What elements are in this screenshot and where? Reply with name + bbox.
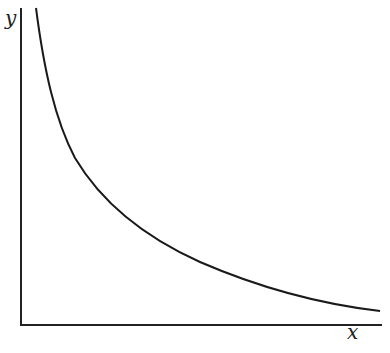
chart-canvas bbox=[0, 0, 390, 353]
y-axis-label: y bbox=[5, 8, 16, 28]
decreasing-curve bbox=[36, 8, 380, 311]
x-axis-label: x bbox=[347, 322, 358, 342]
